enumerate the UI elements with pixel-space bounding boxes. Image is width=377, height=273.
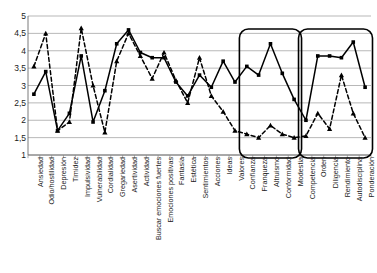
data-point [198,73,202,77]
x-axis-tick-text: Emociones positivas [167,157,174,223]
x-axis-labels: AnsiedadOdio/hostilidadDepresiónTimidezI… [0,157,377,273]
x-axis-tick-label: Valores [238,157,245,181]
data-point [197,55,202,60]
x-axis-tick-label: Estética [190,157,197,183]
x-axis-tick-text: Odio/hostilidad [48,157,55,205]
x-axis-tick-label: Conformidad [285,157,292,198]
x-axis-tick-text: Buscar emociones fuertes [155,157,162,240]
y-axis-tick-label: 4,5 [2,29,26,38]
x-axis-tick-text: Competencia [309,157,316,199]
data-point [114,59,119,64]
x-axis-tick-label: Actividad [143,157,150,186]
data-point [221,59,225,63]
x-axis-tick-label: Timidez [72,157,79,182]
y-axis-tick-label: 3 [2,81,26,90]
y-axis-tick-label: 2 [2,116,26,125]
x-axis-tick-label: Buscar emociones fuertes [155,157,162,240]
x-axis-tick-text: Franqueza [261,157,268,191]
x-axis-tick-label: Impulsividad [84,157,91,197]
data-point [351,111,356,116]
x-axis-tick-text: Ponderación [368,157,375,197]
x-axis-tick-text: Conformidad [285,157,292,198]
x-axis-tick-label: Autodisciplina [356,157,363,201]
data-point [233,80,237,84]
x-axis-tick-text: Orden [320,157,327,177]
data-point [79,26,84,31]
data-point [304,118,308,122]
data-point [269,42,273,46]
x-axis-tick-text: Acciones [214,157,221,186]
data-point [32,92,36,96]
data-point [44,70,48,74]
x-axis-tick-label: Orden [320,157,327,177]
data-point [245,65,249,69]
x-axis-tick-text: Altruismo [273,157,280,187]
x-axis-tick-label: Altruismo [273,157,280,187]
highlight-box-conscientiousness-group [299,29,373,158]
x-axis-tick-label: Fantasía [178,157,185,185]
x-axis-tick-text: Confianza [249,157,256,189]
x-axis-tick-label: Rendimiento [344,157,351,197]
x-axis-tick-text: Ansiedad [37,157,44,187]
y-axis-tick-label: 4 [2,47,26,56]
data-point [351,40,355,44]
x-axis-tick-label: Odio/hostilidad [48,157,55,205]
x-axis-tick-label: Sentimientos [202,157,209,199]
x-axis-tick-text: Valores [238,157,245,181]
x-axis-tick-text: Fantasía [178,157,185,185]
x-axis-tick-text: Depresión [60,157,67,190]
x-axis-tick-text: Vulnerabilidad [96,157,103,202]
x-axis-tick-text: Actividad [143,157,150,186]
x-axis-tick-label: Asertividad [131,157,138,193]
data-point [150,76,155,81]
x-axis-tick-label: Cordialidad [107,157,114,193]
data-point [91,120,95,124]
data-point [79,54,83,58]
x-axis-tick-text: Gregariedad [119,157,126,197]
x-axis-tick-text: Sentimientos [202,157,209,199]
x-axis-tick-text: Ideas [226,157,233,175]
x-axis-tick-text: Modestia [297,157,304,186]
x-axis-tick-text: Diligencia [332,157,339,188]
neo-facet-profile-chart: 11,522,533,544,55 AnsiedadOdio/hostilida… [0,0,377,273]
data-point [257,73,261,77]
y-axis-tick-label: 3,5 [2,64,26,73]
x-axis-tick-label: Franqueza [261,157,268,191]
data-point [280,72,284,76]
data-point [115,42,119,46]
x-axis-tick-label: Vulnerabilidad [96,157,103,202]
x-axis-tick-label: Emociones positivas [167,157,174,223]
data-point [292,98,296,102]
series-line-1 [34,30,365,131]
data-series-layer [31,26,367,140]
x-axis-tick-label: Confianza [249,157,256,189]
x-axis-tick-label: Competencia [309,157,316,199]
x-axis-tick-label: Depresión [60,157,67,190]
data-point [339,72,344,77]
y-axis-tick-label: 5 [2,12,26,21]
data-point [209,93,214,98]
data-point [340,56,344,60]
data-point [316,54,320,58]
data-point [268,123,273,128]
x-axis-tick-label: Diligencia [332,157,339,188]
data-point [328,54,332,58]
data-point [102,130,107,135]
data-point [363,85,367,89]
x-axis-tick-text: Asertividad [131,157,138,193]
y-axis-tick-label: 1,5 [2,133,26,142]
x-axis-tick-text: Cordialidad [107,157,114,193]
x-axis-tick-text: Impulsividad [84,157,91,197]
x-axis-tick-label: Gregariedad [119,157,126,197]
x-axis-tick-label: Ansiedad [37,157,44,187]
data-point [315,111,320,116]
y-axis-tick-label: 2,5 [2,99,26,108]
x-axis-tick-label: Ponderación [368,157,375,197]
data-point [31,64,36,69]
x-axis-tick-label: Ideas [226,157,233,175]
series-line-2 [34,28,365,137]
data-point [103,89,107,93]
x-axis-tick-text: Estética [190,157,197,183]
x-axis-tick-text: Autodisciplina [356,157,363,201]
data-point [150,56,154,60]
